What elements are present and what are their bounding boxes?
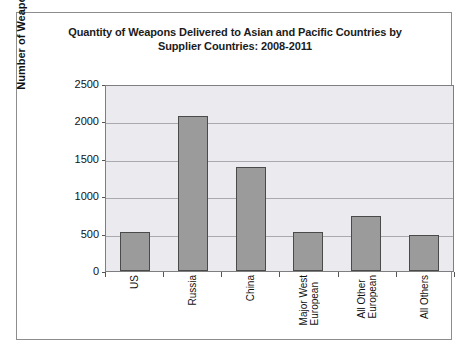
bar-slot [106, 86, 164, 271]
y-tick-label: 0 [55, 265, 99, 277]
y-tick-label: 1000 [55, 190, 99, 202]
chart-title-line-1: Quantity of Weapons Delivered to Asian a… [68, 26, 402, 38]
bar-series [106, 86, 453, 271]
bar-major-west-european[interactable] [293, 232, 323, 271]
y-tick-label: 2500 [55, 78, 99, 90]
x-tick-label-all-other-european: All Other European [356, 275, 378, 318]
chart-frame: Quantity of Weapons Delivered to Asian a… [16, 12, 452, 340]
x-label-slot: China [221, 275, 279, 355]
bar-us[interactable] [120, 232, 150, 271]
x-tick-label-us: US [129, 275, 140, 289]
bar-slot [395, 86, 453, 271]
bar-all-other-european[interactable] [351, 216, 381, 272]
x-label-slot: Russia [163, 275, 221, 355]
y-axis-tick-labels: 2500 2000 1500 1000 500 0 [51, 85, 99, 272]
x-axis-tick-labels: US Russia China Major West European All … [105, 275, 454, 355]
plot-area [105, 85, 454, 272]
x-label-slot: US [105, 275, 163, 355]
bar-slot [164, 86, 222, 271]
x-axis-tick-mark [454, 272, 455, 277]
x-label-slot: All Others [396, 275, 454, 355]
x-label-slot: All Other European [338, 275, 396, 355]
y-tick-label: 500 [55, 228, 99, 240]
y-axis-title: Number of Weapons Delivered [15, 0, 27, 95]
x-tick-label-russia: Russia [187, 275, 198, 306]
bar-all-others[interactable] [409, 235, 439, 271]
x-tick-label-china: China [245, 275, 256, 301]
y-tick-label: 2000 [55, 115, 99, 127]
x-tick-label-all-others: All Others [419, 275, 430, 319]
chart-title-line-2: Supplier Countries: 2008-2011 [158, 40, 312, 52]
bar-russia[interactable] [178, 116, 208, 271]
x-tick-label-major-west-european: Major West European [298, 275, 320, 325]
x-label-slot: Major West European [279, 275, 337, 355]
y-tick-label: 1500 [55, 153, 99, 165]
bar-slot [222, 86, 280, 271]
bar-slot [280, 86, 338, 271]
bar-china[interactable] [236, 167, 266, 271]
bar-slot [337, 86, 395, 271]
chart-title: Quantity of Weapons Delivered to Asian a… [39, 25, 431, 53]
